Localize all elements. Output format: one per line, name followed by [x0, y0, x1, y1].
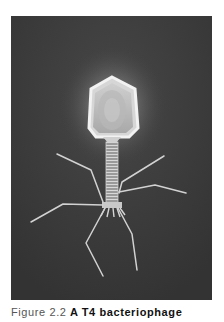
figure-title: A T4 bacteriophage	[70, 306, 182, 318]
bacteriophage-illustration	[11, 16, 212, 300]
capsid-head	[89, 77, 138, 137]
tail-sheath	[106, 142, 118, 206]
bacteriophage-image	[11, 16, 212, 300]
figure-number: Figure 2.2	[11, 306, 67, 318]
figure-caption: Figure 2.2 A T4 bacteriophage	[11, 305, 221, 322]
